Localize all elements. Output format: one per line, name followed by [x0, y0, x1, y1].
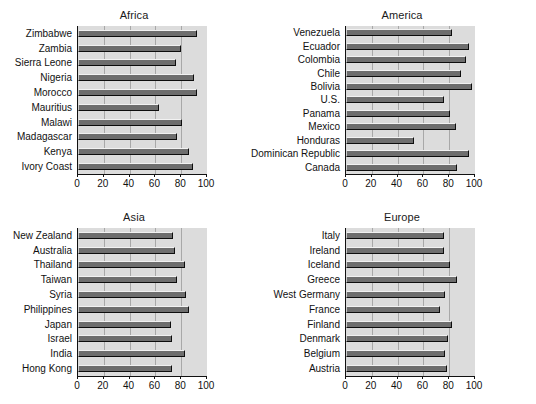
bar-row: [346, 361, 475, 376]
x-axis-tick: [180, 174, 181, 177]
bar-row: [78, 144, 207, 159]
x-axis-tick: [422, 376, 423, 379]
category-label: France: [268, 302, 343, 317]
x-axis-tick: [77, 174, 78, 177]
bar: [78, 59, 176, 66]
category-label: Mauritius: [0, 100, 75, 115]
bar: [346, 232, 444, 239]
category-label: India: [0, 346, 75, 361]
category-label: Ireland: [268, 243, 343, 258]
x-axis-tick: [129, 174, 130, 177]
bar: [78, 45, 181, 52]
x-axis-tick: [448, 174, 449, 177]
bar: [78, 350, 185, 357]
panel-title: Africa: [0, 9, 268, 21]
x-axis-tick-label: 100: [198, 380, 215, 391]
bar-row: [346, 302, 475, 317]
chart-panel-europe: EuropeItalyIrelandIcelandGreeceWest Germ…: [268, 202, 536, 404]
category-label: Greece: [268, 272, 343, 287]
bar: [346, 321, 452, 328]
chart-area: ItalyIrelandIcelandGreeceWest GermanyFra…: [268, 228, 536, 404]
bar-series: [346, 228, 475, 376]
x-axis-tick-label: 0: [342, 380, 348, 391]
x-axis-tick: [129, 376, 130, 379]
x-axis-tick: [397, 174, 398, 177]
bar: [78, 276, 177, 283]
x-axis-tick: [77, 376, 78, 379]
x-axis: 020406080100: [77, 376, 206, 402]
category-label: Syria: [0, 287, 75, 302]
bar: [346, 306, 440, 313]
bar-row: [346, 272, 475, 287]
x-axis: 020406080100: [345, 376, 474, 402]
bar-row: [78, 26, 207, 41]
x-axis-tick: [422, 174, 423, 177]
bar-row: [78, 361, 207, 376]
category-label: Dominican Republic: [268, 147, 343, 160]
bar-row: [78, 85, 207, 100]
x-axis-tick: [474, 174, 475, 177]
category-label: Zimbabwe: [0, 26, 75, 41]
bar-row: [78, 243, 207, 258]
category-label: Belgium: [268, 346, 343, 361]
category-label: Australia: [0, 243, 75, 258]
bar: [346, 43, 469, 50]
bar-row: [78, 228, 207, 243]
bar: [346, 164, 457, 171]
x-axis-tick: [180, 376, 181, 379]
bar-row: [346, 134, 475, 147]
chart-panel-asia: AsiaNew ZealandAustraliaThailandTaiwanSy…: [0, 202, 268, 404]
bar: [346, 83, 472, 90]
bar: [78, 306, 189, 313]
x-axis-tick: [371, 376, 372, 379]
bar-series: [78, 26, 207, 174]
x-axis-tick-label: 40: [123, 380, 134, 391]
bar-row: [346, 66, 475, 79]
x-axis-tick-label: 80: [443, 178, 454, 189]
bar: [78, 30, 197, 37]
x-axis-tick-label: 80: [175, 380, 186, 391]
bar-row: [346, 287, 475, 302]
chart-panel-america: AmericaVenezuelaEcuadorColombiaChileBoli…: [268, 0, 536, 202]
x-axis-tick: [206, 376, 207, 379]
category-label: Malawi: [0, 115, 75, 130]
x-axis-tick: [345, 174, 346, 177]
bar: [346, 276, 457, 283]
category-label: Kenya: [0, 144, 75, 159]
bar: [346, 70, 461, 77]
x-axis: 020406080100: [345, 174, 474, 200]
x-axis-tick-label: 100: [198, 178, 215, 189]
bar-row: [346, 332, 475, 347]
category-label: Colombia: [268, 53, 343, 66]
category-label: Italy: [268, 228, 343, 243]
panel-title: Asia: [0, 211, 268, 223]
x-axis-tick-label: 0: [342, 178, 348, 189]
x-axis-tick: [103, 376, 104, 379]
bar: [346, 56, 466, 63]
x-axis-tick-label: 60: [417, 178, 428, 189]
bar: [78, 335, 172, 342]
bar-row: [346, 80, 475, 93]
bar: [346, 137, 414, 144]
chart-area: ZimbabweZambiaSierra LeoneNigeriaMorocco…: [0, 26, 268, 202]
panel-title: America: [268, 9, 536, 21]
bar: [346, 150, 469, 157]
bar: [346, 123, 456, 130]
bar-row: [78, 317, 207, 332]
bar-series: [346, 26, 475, 174]
chart-area: New ZealandAustraliaThailandTaiwanSyriaP…: [0, 228, 268, 404]
bar-series: [78, 228, 207, 376]
bar: [346, 335, 448, 342]
category-label: Zambia: [0, 41, 75, 56]
category-axis-labels: VenezuelaEcuadorColombiaChileBoliviaU.S.…: [268, 26, 343, 174]
x-axis-tick-label: 80: [175, 178, 186, 189]
category-label: Denmark: [268, 332, 343, 347]
category-label: Madagascar: [0, 130, 75, 145]
x-axis-tick: [154, 174, 155, 177]
bar-row: [78, 70, 207, 85]
category-label: West Germany: [268, 287, 343, 302]
bar: [78, 247, 175, 254]
plot-area: [77, 228, 207, 377]
panel-title: Europe: [268, 211, 536, 223]
plot-area: [77, 26, 207, 175]
